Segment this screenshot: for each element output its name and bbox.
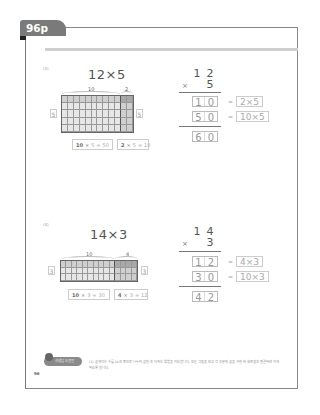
eq-b: 3 — [87, 292, 90, 298]
eq-equals: = — [92, 292, 96, 298]
digit: 2 — [205, 257, 217, 266]
eq-b: 5 — [91, 142, 94, 148]
eq-result: 12 — [141, 292, 147, 298]
side-left-box: 5 — [50, 109, 57, 118]
eq-a: 10 — [76, 142, 83, 148]
times-sign: × — [182, 240, 188, 248]
partial-product-1[interactable]: 1 2 — [192, 256, 218, 267]
equals-sign: = — [228, 113, 233, 120]
partial-expr-2[interactable]: 10×3 — [236, 271, 269, 282]
eq-op: × — [126, 142, 130, 148]
tens-equation-box: 10 × 5 = 50 — [72, 139, 113, 150]
teacher-note-label: 선생님 도움말 — [55, 358, 74, 363]
grid-cell — [127, 103, 133, 110]
digit: 3 — [193, 272, 205, 281]
equals-sign: = — [228, 258, 233, 265]
digit: 1 — [193, 97, 205, 106]
teacher-note-text: (3) 곱해지는 수를 10과 몇으로 나누어 곱한 후 더하는 방법을 지도합… — [89, 359, 279, 371]
times-sign: × — [182, 82, 188, 90]
ones-equation-box: 4 × 3 = 12 — [114, 289, 148, 300]
teacher-icon — [45, 353, 53, 361]
ones-equation-box: 2 × 5 = 10 — [117, 139, 149, 150]
digit: 0 — [205, 97, 217, 106]
rule-line — [179, 126, 221, 127]
digit: 0 — [205, 272, 217, 281]
eq-b: 5 — [133, 142, 136, 148]
digit: 0 — [205, 132, 217, 141]
grid-cell — [127, 125, 133, 132]
partial-expr-1[interactable]: 4×3 — [236, 256, 263, 267]
area-grid — [60, 260, 138, 282]
digit: 0 — [205, 112, 217, 121]
problem-title: 12×5 — [88, 67, 126, 82]
eq-equals: = — [135, 292, 139, 298]
side-right-box: 5 — [136, 109, 143, 118]
partial-expr-2[interactable]: 10×5 — [236, 111, 269, 122]
eq-equals: = — [138, 142, 142, 148]
ones-label: 4 — [126, 251, 129, 257]
eq-a: 2 — [121, 142, 124, 148]
eq-result: 10 — [144, 142, 150, 148]
tens-label: 10 — [86, 251, 92, 257]
header-divider-bar — [45, 48, 298, 51]
tens-label: 10 — [88, 86, 94, 92]
total-product[interactable]: 6 0 — [192, 131, 218, 142]
problem-label: (3) — [43, 66, 49, 71]
area-grid — [61, 95, 134, 133]
digit: 6 — [193, 132, 205, 141]
grid-cell — [127, 96, 133, 103]
eq-result: 50 — [103, 142, 109, 148]
eq-a: 10 — [72, 292, 79, 298]
top-tens-digit: 1 — [192, 226, 202, 238]
ones-label: 2 — [125, 86, 128, 92]
eq-a: 4 — [118, 292, 121, 298]
rule-line — [179, 92, 221, 93]
page-tab: 96p — [20, 20, 66, 36]
grid-cell — [132, 268, 137, 275]
equals-sign: = — [228, 98, 233, 105]
partial-product-2[interactable]: 5 0 — [192, 111, 218, 122]
problem-title: 14×3 — [90, 227, 128, 242]
eq-equals: = — [96, 142, 100, 148]
partial-expr-1[interactable]: 2×5 — [236, 96, 263, 107]
problem-label: (4) — [43, 222, 49, 227]
page-number: 96 — [34, 371, 40, 376]
digit: 1 — [193, 257, 205, 266]
digit: 4 — [193, 292, 205, 301]
multiplier-digit: 5 — [205, 79, 215, 91]
side-left-box: 3 — [48, 266, 55, 275]
rule-line — [179, 286, 221, 287]
multiplier-digit: 3 — [205, 237, 215, 249]
equals-sign: = — [228, 273, 233, 280]
grid-cell — [132, 261, 137, 268]
eq-op: × — [81, 292, 85, 298]
tens-equation-box: 10 × 3 = 30 — [68, 289, 110, 300]
grid-cell — [127, 118, 133, 125]
grid-cell — [132, 274, 137, 281]
eq-op: × — [85, 142, 89, 148]
digit: 2 — [205, 292, 217, 301]
eq-op: × — [123, 292, 127, 298]
total-product[interactable]: 4 2 — [192, 291, 218, 302]
digit: 5 — [193, 112, 205, 121]
eq-result: 30 — [99, 292, 105, 298]
page-frame — [25, 27, 298, 389]
partial-product-2[interactable]: 3 0 — [192, 271, 218, 282]
tab-fold-decoration — [20, 36, 26, 40]
top-tens-digit: 1 — [192, 68, 202, 80]
eq-b: 3 — [130, 292, 133, 298]
grid-cell — [127, 110, 133, 117]
side-right-box: 3 — [141, 266, 148, 275]
rule-line — [179, 251, 221, 252]
partial-product-1[interactable]: 1 0 — [192, 96, 218, 107]
